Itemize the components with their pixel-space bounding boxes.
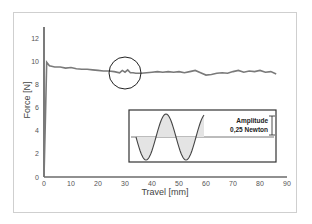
x-tick-label: 10	[67, 180, 75, 187]
y-tick-label: 6	[35, 104, 39, 111]
y-tick-label: 0	[35, 174, 39, 181]
y-tick-label: 8	[35, 81, 39, 88]
y-axis-label: Force [N]	[22, 81, 32, 118]
x-tick-label: 20	[94, 180, 102, 187]
x-axis-ticks: 0102030405060708090	[42, 180, 291, 187]
y-tick-label: 2	[35, 150, 39, 157]
x-tick-label: 60	[202, 180, 210, 187]
inset-box: Amplitude 0,25 Newton	[129, 110, 276, 162]
y-tick-label: 4	[35, 127, 39, 134]
x-tick-label: 40	[148, 180, 156, 187]
force-travel-chart: 024681012 0102030405060708090 Amplitude …	[0, 0, 312, 224]
x-tick-label: 80	[256, 180, 264, 187]
y-tick-label: 10	[31, 58, 39, 65]
x-tick-label: 30	[121, 180, 129, 187]
x-axis-label: Travel [mm]	[141, 187, 188, 197]
x-tick-label: 50	[175, 180, 183, 187]
amplitude-value: 0,25 Newton	[230, 126, 268, 134]
x-tick-label: 70	[229, 180, 237, 187]
y-axis-ticks: 024681012	[31, 35, 39, 181]
x-tick-label: 0	[42, 180, 46, 187]
x-tick-label: 90	[283, 180, 291, 187]
y-tick-label: 12	[31, 35, 39, 42]
amplitude-label: Amplitude	[236, 117, 268, 125]
